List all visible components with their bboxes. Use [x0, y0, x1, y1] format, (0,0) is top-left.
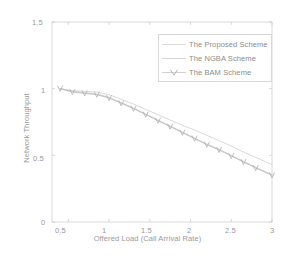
y-tick-label-0.5: 0.5	[33, 154, 44, 163]
legend-line-icon-ngba	[159, 52, 189, 65]
chart-figure: 1.5 1 0.5 0 0.5 1 1.5 2 2.5 3 Network Th…	[0, 0, 295, 262]
x-axis-title: Offered Load (Call Arrival Rate)	[0, 234, 295, 243]
legend-label-proposed: The Proposed Scheme	[189, 40, 268, 49]
series-2	[60, 89, 272, 175]
series-3	[58, 86, 275, 178]
legend-item-proposed-scheme: The Proposed Scheme	[159, 38, 273, 51]
legend-line-icon-proposed	[159, 38, 189, 51]
y-tick-label-1: 1	[41, 86, 45, 95]
y-tick-label-1.5: 1.5	[32, 18, 43, 27]
y-axis-title-wrap: Network Throughput	[20, 78, 32, 178]
legend-label-bam: The BAM Scheme	[189, 68, 251, 77]
legend-label-ngba: The NGBA Scheme	[189, 54, 256, 63]
legend-item-ngba-scheme: The NGBA Scheme	[159, 52, 273, 65]
chart-legend: The Proposed Scheme The NGBA Scheme The …	[158, 34, 272, 82]
legend-item-bam-scheme: The BAM Scheme	[159, 66, 273, 79]
series-1	[60, 89, 272, 165]
legend-marker-icon-bam	[159, 66, 189, 79]
y-tick-label-0: 0	[41, 218, 45, 227]
y-axis-title: Network Throughput	[22, 93, 31, 163]
